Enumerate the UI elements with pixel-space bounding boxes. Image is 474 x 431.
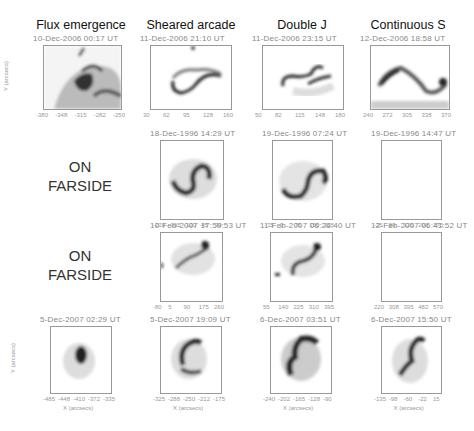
solar-image: [270, 326, 332, 394]
panel-timestamp: 11-Feb-2007 06:26:40 UT: [260, 221, 356, 230]
panel-timestamp: 12-Feb-2007 06:41:52 UT: [371, 221, 468, 230]
x-tick-label: 240: [363, 112, 373, 118]
x-tick-label: -250: [113, 112, 125, 118]
x-tick-label: 55: [263, 304, 270, 310]
solar-image: [370, 45, 450, 110]
x-tick-label: -98: [389, 396, 398, 402]
x-tick-label: -202: [278, 396, 290, 402]
x-tick-label: 148: [315, 112, 325, 118]
x-tick-label: 308: [389, 304, 399, 310]
sigmoid-image: [273, 141, 332, 219]
solar-image: [381, 140, 442, 220]
sigmoid-image: [371, 46, 449, 109]
farside-label-row2: ON FARSIDE: [30, 157, 130, 195]
x-tick-label: -325: [153, 396, 165, 402]
panel-timestamp: 6-Dec-2007 03:51 UT: [260, 315, 341, 324]
panel-timestamp: 6-Dec-2007 15:50 UT: [371, 315, 452, 324]
x-tick-label: 140: [278, 304, 288, 310]
x-tick-label: -90: [323, 396, 332, 402]
x-tick-label: 482: [418, 304, 428, 310]
farside-line1: ON: [30, 246, 130, 265]
x-axis-label: X (arcsecs): [283, 405, 313, 411]
sigmoid-image: [161, 327, 221, 393]
column-title-sheared-arcade: Sheared arcade: [136, 18, 246, 32]
x-tick-label: 175: [199, 304, 209, 310]
solar-image: [150, 45, 232, 110]
x-axis-label: X (arcsecs): [173, 405, 203, 411]
panel-timestamp: 18-Dec-1996 14:29 UT: [150, 129, 235, 138]
x-tick-label: 180: [335, 112, 345, 118]
solar-image: [160, 232, 223, 302]
column-title-continuous-s: Continuous S: [353, 18, 463, 32]
solar-image: [270, 232, 333, 302]
farside-line2: FARSIDE: [30, 265, 130, 284]
farside-line2: FARSIDE: [30, 176, 130, 195]
solar-image: [381, 326, 442, 394]
column-title-double-j: Double J: [247, 18, 357, 32]
sigmoid-image: [51, 327, 111, 393]
x-tick-label: 395: [404, 304, 414, 310]
sigmoid-image: [263, 46, 343, 109]
panel-timestamp: 5-Dec-2007 19:09 UT: [150, 315, 231, 324]
x-tick-label: -410: [73, 396, 85, 402]
sigmoid-image: [44, 46, 121, 109]
x-tick-label: -22: [418, 396, 427, 402]
panel-timestamp: 11-Dec-2006 21:10 UT: [140, 34, 225, 43]
x-tick-label: 570: [433, 304, 443, 310]
x-tick-label: -335: [103, 396, 115, 402]
solar-image: [50, 326, 112, 394]
x-axis-label: X (arcsecs): [63, 405, 93, 411]
panel-timestamp: 10-Feb-2007 17:59:53 UT: [150, 221, 247, 230]
x-tick-label: 220: [374, 304, 384, 310]
x-tick-label: -240: [263, 396, 275, 402]
x-tick-label: -175: [213, 396, 225, 402]
x-tick-label: 128: [203, 112, 213, 118]
x-tick-label: 160: [223, 112, 233, 118]
solar-image: [381, 232, 442, 302]
panel-timestamp: 12-Dec-2006 18:58 UT: [360, 34, 445, 43]
x-tick-label: -380: [36, 112, 48, 118]
x-tick-label: 95: [183, 112, 190, 118]
x-tick-label: 338: [422, 112, 432, 118]
solar-image: [262, 45, 344, 110]
panel-timestamp: 10-Dec-2006 00:17 UT: [33, 34, 118, 43]
solar-image: [160, 326, 222, 394]
panel-timestamp: 11-Dec-2006 23:15 UT: [252, 34, 337, 43]
x-tick-label: -372: [88, 396, 100, 402]
sigmoid-image: [161, 233, 222, 301]
x-axis-label: X (arcsecs): [394, 405, 424, 411]
x-tick-label: 225: [294, 304, 304, 310]
x-tick-label: -288: [168, 396, 180, 402]
x-tick-label: -128: [308, 396, 320, 402]
solar-image: [272, 140, 333, 220]
x-tick-label: 395: [324, 304, 334, 310]
x-tick-label: -348: [55, 112, 67, 118]
solar-image: [43, 45, 122, 110]
x-tick-label: -315: [75, 112, 87, 118]
x-tick-label: -250: [183, 396, 195, 402]
x-tick-label: 115: [295, 112, 305, 118]
x-tick-label: 272: [383, 112, 393, 118]
sigmoid-image: [382, 327, 441, 393]
x-tick-label: 260: [214, 304, 224, 310]
farside-line1: ON: [30, 157, 130, 176]
x-tick-label: 82: [275, 112, 282, 118]
x-tick-label: -282: [94, 112, 106, 118]
panel-timestamp: 19-Dec-1996 07:24 UT: [262, 129, 347, 138]
sigmoid-image: [271, 233, 332, 301]
x-tick-label: 310: [309, 304, 319, 310]
x-tick-label: -212: [198, 396, 210, 402]
y-axis-label: Y (arcsecs): [3, 60, 9, 90]
sigmoid-image: [382, 141, 441, 219]
x-tick-label: -165: [293, 396, 305, 402]
x-tick-label: 15: [433, 396, 440, 402]
x-tick-label: 90: [184, 304, 191, 310]
x-tick-label: -60: [404, 396, 413, 402]
panel-timestamp: 19-Dec-1996 14:47 UT: [371, 129, 456, 138]
column-title-flux-emergence: Flux emergence: [26, 18, 136, 32]
farside-label-row3: ON FARSIDE: [30, 246, 130, 284]
x-tick-label: 62: [163, 112, 170, 118]
x-tick-label: -80: [153, 304, 162, 310]
sigmoid-image: [151, 46, 231, 109]
x-tick-label: -135: [374, 396, 386, 402]
